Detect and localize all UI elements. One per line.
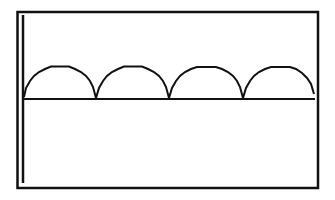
- graph-screen: [0, 0, 335, 200]
- graph-curve: [24, 67, 314, 99]
- arch-4: [243, 67, 314, 98]
- arch-2: [96, 67, 169, 99]
- arch-3: [169, 67, 243, 98]
- arch-1: [24, 67, 96, 99]
